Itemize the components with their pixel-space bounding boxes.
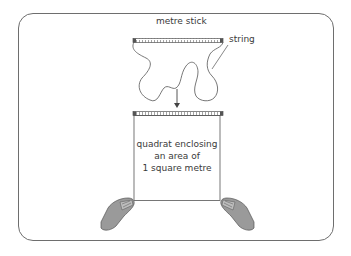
- string-leader-line: [212, 45, 228, 69]
- metre-stick-label: metre stick: [156, 16, 207, 27]
- metre-stick-icon: [133, 112, 223, 116]
- quadrat-caption: quadrat enclosing an area of 1 square me…: [133, 138, 221, 174]
- string-loop-icon: [133, 42, 223, 101]
- left-hand-icon: [101, 198, 134, 230]
- string-label: string: [229, 34, 255, 45]
- quadrat-caption-line-1: quadrat enclosing: [133, 138, 221, 150]
- right-hand-icon: [221, 198, 254, 230]
- down-arrow-icon: [174, 89, 180, 108]
- quadrat-illustration: [0, 0, 351, 256]
- metre-stick-icon: [133, 39, 223, 43]
- quadrat-caption-line-2: an area of: [133, 150, 221, 162]
- quadrat-caption-line-3: 1 square metre: [133, 162, 221, 174]
